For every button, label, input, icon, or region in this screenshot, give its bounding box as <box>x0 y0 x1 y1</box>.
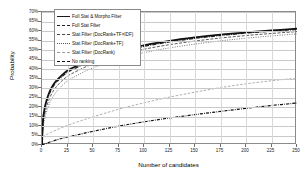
x-tick-label: 50 <box>82 148 102 153</box>
x-tick-label: 250 <box>286 148 305 153</box>
x-tick-label: 125 <box>159 148 179 153</box>
y-tick-mark <box>38 144 41 145</box>
y-tick-mark <box>38 21 41 22</box>
legend-item[interactable]: Full Stat & Morpho Filter <box>57 12 138 21</box>
legend-line-swatch-icon <box>57 58 70 65</box>
x-tick-label: 200 <box>235 148 255 153</box>
x-tick-label: 75 <box>108 148 128 153</box>
y-tick-label: 5% <box>14 132 38 137</box>
x-tick-mark <box>118 144 119 147</box>
x-tick-label: 100 <box>133 148 153 153</box>
y-tick-label: 40% <box>14 66 38 71</box>
chart-container: 0%5%10%15%20%25%30%35%40%45%50%55%60%65%… <box>0 0 305 179</box>
y-tick-mark <box>38 97 41 98</box>
y-tick-label: 45% <box>14 56 38 61</box>
y-tick-label: 0% <box>14 142 38 147</box>
y-axis-title: Probability <box>8 31 15 101</box>
x-tick-mark <box>41 144 42 147</box>
x-tick-mark <box>194 144 195 147</box>
legend-item[interactable]: Stat Filter (DocRank) <box>57 48 138 57</box>
x-tick-label: 175 <box>210 148 230 153</box>
legend-item[interactable]: Stat Filter (DocRank+TF×IDF) <box>57 30 138 39</box>
y-tick-mark <box>38 78 41 79</box>
y-tick-mark <box>38 87 41 88</box>
legend-item-label: Stat Filter (DocRank+TF) <box>72 41 123 46</box>
legend-item-label: Stat Filter (DocRank) <box>72 50 115 55</box>
x-tick-label: 225 <box>261 148 281 153</box>
x-tick-mark <box>271 144 272 147</box>
legend-line-swatch-icon <box>57 49 70 56</box>
y-tick-mark <box>38 106 41 107</box>
x-tick-mark <box>67 144 68 147</box>
x-tick-mark <box>143 144 144 147</box>
y-tick-label: 50% <box>14 47 38 52</box>
y-tick-label: 55% <box>14 37 38 42</box>
y-tick-label: 30% <box>14 85 38 90</box>
y-tick-label: 25% <box>14 94 38 99</box>
x-tick-mark <box>296 144 297 147</box>
legend-line-swatch-icon <box>57 22 70 29</box>
x-tick-mark <box>245 144 246 147</box>
x-axis-title: Number of candidates <box>41 161 296 168</box>
y-tick-mark <box>38 59 41 60</box>
y-tick-mark <box>38 11 41 12</box>
x-tick-mark <box>92 144 93 147</box>
y-tick-mark <box>38 125 41 126</box>
x-tick-label: 25 <box>57 148 77 153</box>
legend-item-label: Full Stat Filter <box>72 23 100 28</box>
y-tick-mark <box>38 40 41 41</box>
chart-legend: Full Stat & Morpho FilterFull Stat Filte… <box>54 9 141 66</box>
x-tick-label: 0 <box>31 148 51 153</box>
y-tick-label: 20% <box>14 104 38 109</box>
legend-item[interactable]: Full Stat Filter <box>57 21 138 30</box>
y-tick-mark <box>38 135 41 136</box>
x-tick-mark <box>220 144 221 147</box>
y-tick-label: 60% <box>14 28 38 33</box>
legend-item-label: Full Stat & Morpho Filter <box>72 14 122 19</box>
y-tick-label: 35% <box>14 75 38 80</box>
legend-line-swatch-icon <box>57 13 70 20</box>
y-tick-mark <box>38 68 41 69</box>
x-tick-label: 150 <box>184 148 204 153</box>
legend-line-swatch-icon <box>57 31 70 38</box>
y-tick-label: 70% <box>14 9 38 14</box>
y-tick-mark <box>38 116 41 117</box>
x-tick-mark <box>169 144 170 147</box>
y-tick-mark <box>38 49 41 50</box>
y-tick-mark <box>38 30 41 31</box>
legend-item-label: No ranking <box>72 59 94 64</box>
legend-item-label: Stat Filter (DocRank+TF×IDF) <box>72 32 133 37</box>
y-tick-label: 65% <box>14 18 38 23</box>
y-tick-label: 10% <box>14 123 38 128</box>
y-tick-label: 15% <box>14 113 38 118</box>
legend-line-swatch-icon <box>57 40 70 47</box>
legend-item[interactable]: No ranking <box>57 57 138 66</box>
legend-item[interactable]: Stat Filter (DocRank+TF) <box>57 39 138 48</box>
